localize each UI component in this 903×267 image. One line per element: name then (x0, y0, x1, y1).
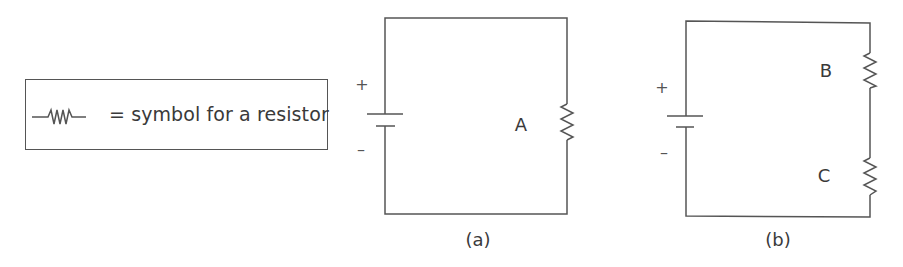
resistor-a-icon (561, 104, 573, 140)
resistor-a-label: A (515, 115, 527, 135)
battery-a-positive-sign: + (355, 77, 368, 93)
circuit-b (667, 21, 876, 217)
circuit-a (367, 18, 573, 214)
wire-b-left-top (686, 21, 870, 116)
wire-a-bottom (385, 126, 567, 214)
resistor-c-label: C (818, 166, 831, 186)
battery-b-positive-sign: + (655, 80, 668, 96)
wire-a-left-top (385, 18, 567, 114)
resistor-c-icon (864, 158, 876, 195)
diagram-canvas: = symbol for a resistor (0, 0, 903, 267)
resistor-b-icon (864, 53, 876, 88)
circuit-a-caption: (a) (465, 230, 490, 250)
resistor-zigzag-icon (32, 110, 86, 124)
resistor-b-label: B (820, 61, 832, 81)
battery-b-negative-sign: – (660, 145, 668, 161)
circuit-drawing (0, 0, 903, 267)
circuit-b-caption: (b) (765, 230, 790, 250)
battery-a-negative-sign: – (357, 142, 365, 158)
wire-b-bottom (686, 127, 870, 217)
